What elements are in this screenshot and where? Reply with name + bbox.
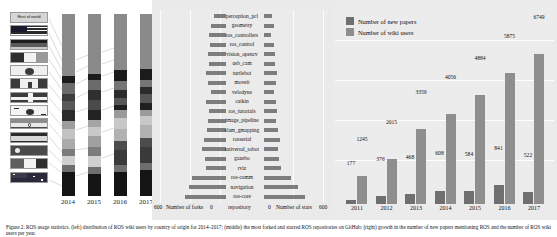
forks-bar bbox=[209, 109, 226, 113]
bar-value-label: 177 bbox=[339, 160, 363, 166]
repository-name: ros-core bbox=[233, 192, 251, 200]
usa-flag-icon bbox=[10, 25, 48, 36]
segment-india bbox=[62, 139, 75, 148]
segment-south-korea bbox=[114, 118, 127, 129]
repository-name: image_pipeline bbox=[225, 116, 258, 124]
segment-china bbox=[114, 150, 127, 165]
repository-row: ros_tutorials bbox=[152, 107, 332, 115]
stars-bar bbox=[264, 176, 291, 180]
axis-right-title: Number of stars bbox=[276, 204, 312, 210]
bar-value-label: 2015 bbox=[380, 119, 404, 125]
forks-bar bbox=[189, 185, 226, 189]
repository-name: ros_controllers bbox=[226, 31, 258, 39]
segment-italy bbox=[62, 165, 75, 172]
segment-south-korea bbox=[88, 127, 101, 136]
axis-left-max: 600 bbox=[154, 204, 162, 210]
segment-france bbox=[62, 94, 75, 101]
year-label-2012: 2012 bbox=[374, 205, 400, 211]
stars-bar bbox=[264, 33, 271, 37]
repository-row: usb_cam bbox=[152, 60, 332, 68]
segment-spain bbox=[62, 149, 75, 156]
stars-bar bbox=[264, 62, 275, 66]
stars-bar bbox=[264, 43, 274, 47]
bar-value-label: 5875 bbox=[498, 33, 522, 39]
repository-name: vision_opencv bbox=[226, 50, 257, 58]
year-label-2017: 2017 bbox=[521, 205, 547, 211]
new-papers-bar bbox=[464, 191, 474, 204]
new-papers-bar bbox=[523, 192, 533, 204]
repository-name: rosserial bbox=[233, 135, 251, 143]
panel-country-distribution: Rest of world bbox=[0, 0, 152, 220]
stars-bar bbox=[264, 147, 278, 151]
panel-papers-users-growth: Number of new papers Number of wiki user… bbox=[332, 0, 557, 220]
repository-row: image_pipeline bbox=[152, 117, 332, 125]
new-papers-bar bbox=[494, 185, 504, 204]
repository-row: gazebo bbox=[152, 155, 332, 163]
new-papers-bar bbox=[435, 191, 445, 205]
year-label-2013: 2013 bbox=[403, 205, 429, 211]
repository-name: perception_pcl bbox=[226, 12, 258, 20]
stack-column-2016 bbox=[114, 14, 127, 196]
repository-row: vision_opencv bbox=[152, 50, 332, 58]
new-papers-bar bbox=[376, 196, 386, 204]
spain-flag-icon bbox=[10, 132, 48, 143]
repository-name: turtlebot bbox=[233, 69, 251, 77]
repository-row: turtlebot bbox=[152, 69, 332, 77]
flag-rest-of-world: Rest of world bbox=[10, 12, 48, 23]
stars-bar bbox=[264, 157, 279, 161]
new-papers-bar bbox=[346, 200, 356, 204]
year-label-2014: 2014 bbox=[433, 205, 459, 211]
year-label-2014: 2014 bbox=[57, 198, 79, 206]
china-flag-icon bbox=[10, 145, 48, 156]
stars-bar bbox=[264, 24, 274, 28]
segment-italy bbox=[114, 165, 127, 172]
wiki-users-bar bbox=[475, 95, 485, 204]
segment-japan bbox=[88, 100, 101, 111]
axis-left-title: Number of forks bbox=[166, 204, 203, 210]
country-flag-legend: Rest of world bbox=[10, 12, 48, 185]
panel-a-year-axis: 2014 2015 2016 2017 bbox=[0, 198, 152, 210]
forks-bar bbox=[206, 166, 226, 170]
segment-usa bbox=[114, 70, 127, 81]
panel-b-bars: perception_pclgeometryros_controllersros… bbox=[152, 10, 332, 203]
new-papers-bar bbox=[405, 194, 415, 204]
forks-bar bbox=[207, 128, 226, 132]
segment-india bbox=[88, 136, 101, 147]
forks-bar bbox=[202, 147, 226, 151]
legend-swatch-wiki-users bbox=[346, 28, 354, 36]
segment-uk bbox=[88, 120, 101, 127]
stars-bar bbox=[264, 185, 298, 189]
stars-bar bbox=[264, 166, 281, 170]
legend-label-new-papers: Number of new papers bbox=[358, 18, 416, 25]
repository-name: gazebo bbox=[234, 154, 249, 162]
bar-value-label: 4884 bbox=[468, 55, 492, 61]
repository-row: ros_controllers bbox=[152, 31, 332, 39]
segment-italy bbox=[88, 167, 101, 174]
segment-china bbox=[88, 156, 101, 167]
stars-bar bbox=[264, 109, 277, 113]
wiki-users-bar bbox=[446, 114, 456, 204]
forks-bar bbox=[209, 62, 226, 66]
stars-bar bbox=[264, 128, 278, 132]
bar-value-label: 6749 bbox=[527, 14, 551, 20]
repository-name: ros_tutorials bbox=[229, 107, 256, 115]
panel-repository-forks-stars: perception_pclgeometryros_controllersros… bbox=[152, 0, 332, 220]
segment-rest-of-world bbox=[62, 14, 75, 76]
ros-statistics-figure: Rest of world bbox=[0, 0, 557, 237]
repository-name: rviz bbox=[238, 164, 246, 172]
segment-china bbox=[62, 156, 75, 165]
segment-south-korea bbox=[62, 129, 75, 140]
forks-bar bbox=[206, 71, 226, 75]
stars-bar bbox=[264, 90, 274, 94]
year-label-2011: 2011 bbox=[344, 205, 370, 211]
repository-row: navigation bbox=[152, 183, 332, 191]
segment-rest-of-world bbox=[114, 14, 127, 70]
repository-name: catkin bbox=[235, 97, 248, 105]
forks-bar bbox=[204, 138, 226, 142]
segment-canada bbox=[62, 110, 75, 121]
wiki-users-bar bbox=[534, 54, 544, 204]
segment-japan bbox=[114, 98, 127, 105]
panel-c-legend: Number of new papers Number of wiki user… bbox=[346, 17, 416, 39]
repository-row: catkin bbox=[152, 98, 332, 106]
repository-row: geometry bbox=[152, 22, 332, 30]
